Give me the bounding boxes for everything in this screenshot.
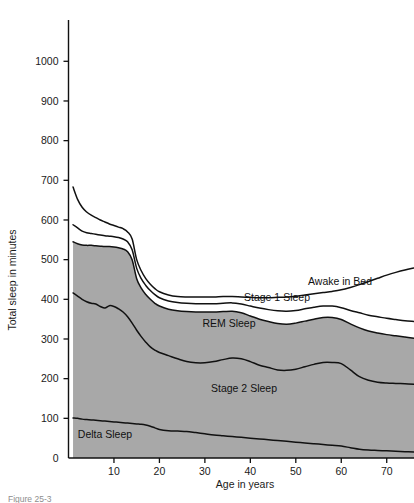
band-label: Awake in Bed: [308, 275, 372, 287]
x-tick-label: 60: [335, 465, 347, 477]
sleep-stages-area-chart: 01002003004005006007008009001000 1020304…: [0, 0, 414, 503]
y-tick-label: 200: [41, 372, 59, 384]
y-tick-label: 800: [41, 134, 59, 146]
y-axis-title: Total sleep in minutes: [6, 230, 18, 331]
y-tick-label: 1000: [35, 55, 59, 67]
y-tick-label: 900: [41, 95, 59, 107]
band-label: Stage 1 Sleep: [244, 291, 310, 303]
y-tick-label: 100: [41, 412, 59, 424]
band-label: Delta Sleep: [78, 428, 132, 440]
y-tick-label: 700: [41, 174, 59, 186]
x-tick-label: 30: [199, 465, 211, 477]
x-tick-label: 50: [290, 465, 302, 477]
x-axis-title: Age in years: [216, 478, 274, 490]
band-label: REM Sleep: [202, 317, 255, 329]
y-tick-label: 600: [41, 214, 59, 226]
y-tick-label: 500: [41, 253, 59, 265]
y-tick-label: 0: [53, 452, 59, 464]
x-tick-label: 20: [154, 465, 166, 477]
x-tick-label: 10: [108, 465, 120, 477]
x-tick-label: 70: [381, 465, 393, 477]
x-tick-label: 40: [244, 465, 256, 477]
y-tick-label: 300: [41, 333, 59, 345]
y-tick-label: 400: [41, 293, 59, 305]
band-label: Stage 2 Sleep: [211, 382, 277, 394]
figure-caption: Figure 25-3: [8, 494, 52, 503]
